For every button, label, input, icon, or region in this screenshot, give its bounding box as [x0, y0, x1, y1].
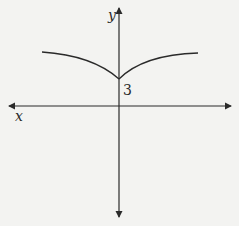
y-intercept-label: 3 [123, 82, 132, 98]
curve-left-branch [42, 52, 119, 79]
graph-canvas: y x 3 [0, 0, 239, 226]
curve [42, 52, 198, 79]
y-axis-label: y [107, 7, 117, 23]
graph-svg: y x 3 [0, 0, 239, 226]
x-axis-label: x [15, 108, 23, 124]
curve-right-branch [119, 53, 198, 79]
